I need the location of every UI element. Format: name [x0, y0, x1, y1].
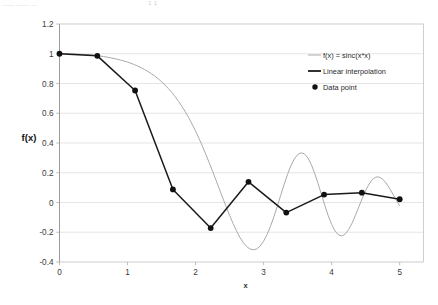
x-tick-marks — [56, 24, 399, 265]
legend-label: Linear interpolation — [323, 67, 386, 76]
legend-label: f(x) = sinc(x*x) — [323, 51, 370, 60]
x-tick-label: 1 — [125, 268, 130, 277]
y-tick-label: 0.8 — [42, 80, 54, 89]
y-tick-label: 0 — [49, 199, 54, 208]
legend-dot-swatch — [312, 84, 317, 89]
y-tick-label: 0.4 — [42, 139, 54, 148]
data-point-marker — [94, 53, 100, 59]
x-tick-label: 3 — [261, 268, 266, 277]
data-point-marker — [359, 190, 365, 196]
chart-canvas: ____ ____ __ 1 1 1.210.80.60.40.20-0.2-0… — [0, 0, 438, 305]
sinc-plot: 1.210.80.60.40.20-0.2-0.4012345 f(x)x f(… — [0, 0, 438, 305]
data-point-marker — [283, 210, 289, 216]
data-point-marker — [132, 88, 138, 94]
y-axis-title: f(x) — [22, 132, 37, 143]
y-tick-label: 1 — [49, 50, 54, 59]
data-point-marker — [397, 196, 403, 202]
y-tick-label: 0.6 — [42, 109, 54, 118]
y-tick-label: -0.4 — [39, 258, 54, 267]
y-tick-label: 0.2 — [42, 169, 54, 178]
x-tick-label: 0 — [57, 268, 62, 277]
data-point-marker — [170, 187, 176, 193]
x-axis-title: x — [243, 281, 248, 290]
x-tick-label: 2 — [193, 268, 198, 277]
x-tick-label: 5 — [397, 268, 402, 277]
y-tick-label: -0.2 — [39, 228, 54, 237]
chart-legend: f(x) = sinc(x*x)Linear interpolationData… — [308, 51, 386, 92]
axis-titles: f(x)x — [22, 132, 249, 290]
data-point-marker — [321, 192, 327, 198]
data-point-marker — [208, 225, 214, 231]
data-point-marker — [57, 51, 63, 57]
y-tick-label: 1.2 — [42, 20, 54, 29]
data-point-marker — [246, 179, 252, 185]
legend-label: Data point — [323, 83, 357, 92]
x-tick-label: 4 — [329, 268, 334, 277]
linear-interpolation-line — [60, 54, 400, 228]
